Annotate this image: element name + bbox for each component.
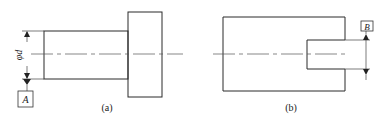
caption-a: (a) [101,102,112,114]
shaft-body [44,31,128,79]
datum-label-b: B [364,22,370,32]
caption-b: (b) [285,102,297,114]
figure-b: B (b) [213,17,373,114]
technical-drawing: φd A (a) B (b) [0,0,385,124]
datum-triangle [23,79,31,85]
dimension-label: φd [13,49,24,61]
datum-label-a: A [21,94,29,105]
shaft-flange [128,12,162,97]
dimension-arrow-bottom [363,69,369,75]
datum-triangle [363,34,369,40]
figure-a: φd A (a) [13,12,183,114]
